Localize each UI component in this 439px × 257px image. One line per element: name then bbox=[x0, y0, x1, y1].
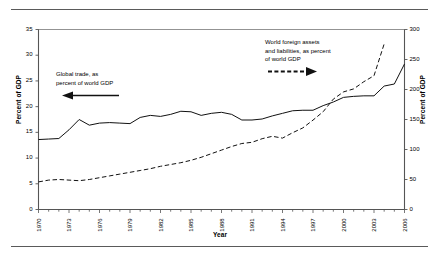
annotation-line: and liabilities, as percent bbox=[265, 47, 331, 56]
x-axis-tick-label: 2003 bbox=[371, 211, 377, 239]
x-axis-tick-label: 1985 bbox=[188, 211, 194, 239]
y-axis-right-tick-label: 50 bbox=[410, 176, 432, 182]
annotation-line: Global trade, as bbox=[56, 70, 113, 79]
x-axis-tick-label: 1982 bbox=[158, 211, 164, 239]
x-axis-tick-label: 1994 bbox=[280, 211, 286, 239]
y-axis-right-tick-label: 150 bbox=[410, 116, 432, 122]
x-axis-tick-label: 2000 bbox=[341, 211, 347, 239]
y-axis-right-tick-label: 300 bbox=[410, 26, 432, 32]
x-axis-tick-label: 1988 bbox=[219, 211, 225, 239]
y-axis-left-tick-label: 20 bbox=[13, 103, 33, 109]
annotation-line: World foreign assets bbox=[265, 38, 331, 47]
x-axis-tick-label: 1991 bbox=[249, 211, 255, 239]
data-series bbox=[39, 44, 405, 182]
x-axis-tick-label: 1970 bbox=[36, 211, 42, 239]
y-axis-right-tick-label: 250 bbox=[410, 56, 432, 62]
y-axis-right-tick-label: 200 bbox=[410, 86, 432, 92]
y-axis-left-tick-label: 35 bbox=[13, 26, 33, 32]
axis-ticks bbox=[36, 30, 408, 214]
annotation-world-foreign-assets: World foreign assets and liabilities, as… bbox=[265, 38, 331, 64]
y-axis-right-title: Percent of GDP bbox=[419, 60, 426, 140]
x-axis-tick-label: 1979 bbox=[127, 211, 133, 239]
figure-container: Percent of GDP Percent of GDP Year 05101… bbox=[0, 0, 439, 257]
y-axis-left-tick-label: 15 bbox=[13, 128, 33, 134]
y-axis-left-tick-label: 5 bbox=[13, 180, 33, 186]
annotation-line: percent of world GDP bbox=[56, 79, 113, 88]
annotation-line: of world GDP bbox=[265, 55, 331, 64]
y-axis-left-tick-label: 10 bbox=[13, 154, 33, 160]
y-axis-left-tick-label: 30 bbox=[13, 51, 33, 57]
annotation-global-trade: Global trade, as percent of world GDP bbox=[56, 70, 113, 87]
x-axis-tick-label: 1976 bbox=[97, 211, 103, 239]
x-axis-tick-label: 1997 bbox=[310, 211, 316, 239]
y-axis-left-tick-label: 0 bbox=[13, 206, 33, 212]
y-axis-right-tick-label: 0 bbox=[410, 206, 432, 212]
x-axis-tick-label: 1973 bbox=[66, 211, 72, 239]
plot-frame bbox=[39, 30, 405, 210]
x-axis-tick-label: 2006 bbox=[402, 211, 408, 239]
chart-plot-area: Percent of GDP Percent of GDP Year 05101… bbox=[0, 0, 439, 257]
y-axis-right-tick-label: 100 bbox=[410, 146, 432, 152]
y-axis-left-tick-label: 25 bbox=[13, 77, 33, 83]
